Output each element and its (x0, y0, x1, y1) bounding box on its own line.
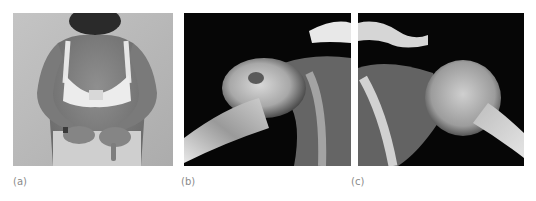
panel-label-a: (a) (13, 176, 27, 187)
shoulder-xray-image (358, 13, 524, 166)
panel-label-c: (c) (351, 176, 364, 187)
shoulder-xray-image (184, 13, 351, 166)
patient-back-image (13, 13, 173, 166)
panel-label-b: (b) (181, 176, 195, 187)
panel-c-xray (358, 13, 524, 166)
panel-b-xray (184, 13, 351, 166)
panel-a-photo (13, 13, 173, 166)
